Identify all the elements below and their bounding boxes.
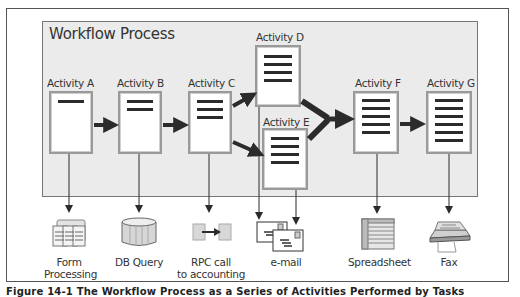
output-label-line: e-mail [266, 256, 306, 268]
arrow-c-to-e [233, 142, 258, 153]
output-label-line: RPC call [176, 256, 246, 268]
output-label-line: Spreadsheet [348, 256, 408, 268]
output-label-form-processing: Form Processing [44, 256, 94, 280]
figure-caption: Figure 14-1 The Workflow Process as a Se… [6, 286, 465, 297]
output-label-rpc-call: RPC call to accounting [176, 256, 246, 280]
output-label-line: Fax [434, 256, 464, 268]
output-label-line: to accounting [176, 268, 246, 280]
fax-icon [426, 216, 472, 254]
output-label-spreadsheet: Spreadsheet [348, 256, 408, 268]
rpc-call-icon [192, 218, 232, 244]
form-processing-icon [51, 218, 89, 250]
output-label-line: Processing [44, 268, 94, 280]
output-label-line: DB Query [114, 256, 164, 268]
arrow-d-merge [302, 101, 328, 118]
output-label-email: e-mail [266, 256, 306, 268]
output-label-fax: Fax [434, 256, 464, 268]
arrow-c-to-d [233, 96, 251, 106]
output-label-line: Form [44, 256, 94, 268]
output-label-db-query: DB Query [114, 256, 164, 268]
database-icon [120, 217, 158, 249]
arrow-e-merge [309, 120, 328, 139]
email-icon [256, 218, 306, 254]
spreadsheet-icon [361, 218, 395, 250]
